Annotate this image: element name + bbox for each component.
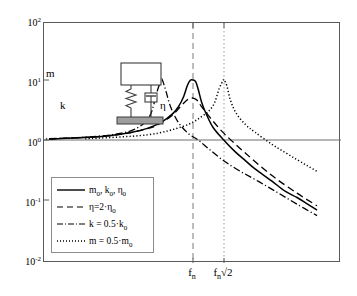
y-tick-exponent: -2 [35,255,41,263]
y-tick-exponent: 2 [38,16,42,24]
x-tick-label-fn: fn [188,266,196,278]
y-tick-label: 10-1 [25,198,41,208]
y-axis-tick-labels: 102 101 100 10-1 10-2 [0,0,41,296]
legend-label-soft-spring: k = 0.5·k0 [89,219,127,229]
spring-icon [126,85,136,117]
mass-block-icon [121,63,161,85]
y-tick-label: 102 [28,18,42,28]
legend-label-high-damping: η=2·η0 [89,202,116,212]
y-tick-label: 10-2 [25,257,41,267]
figure-root: 102 101 100 10-1 10-2 fn fn√2 [0,0,357,296]
y-tick-label: 100 [28,138,42,148]
legend-sample-dashed [56,202,86,212]
legend-sample-dashdot [56,219,86,229]
inset-spring-label: k [60,99,66,111]
plot-area: m k η m0, k0, η0 η=2·η0 k = 0.5·k0 [43,22,340,262]
legend-box: m0, k0, η0 η=2·η0 k = 0.5·k0 m = 0.5·m0 [51,177,154,253]
legend-item-soft-spring: k = 0.5·k0 [56,215,149,232]
y-tick-label: 101 [28,78,42,88]
inset-damper-label: η [160,99,166,111]
legend-label-baseline: m0, k0, η0 [89,185,126,195]
legend-sample-solid [56,185,86,195]
ground-icon [117,117,163,124]
inset-mass-label: m [46,67,55,79]
sqrt2-symbol: √2 [221,266,233,278]
legend-item-light-mass: m = 0.5·m0 [56,232,149,249]
y-tick-exponent: -1 [35,196,41,204]
legend-sample-dotted [56,236,86,246]
y-tick-exponent: 1 [38,76,42,84]
y-tick-exponent: 0 [38,136,42,144]
x-tick-label-fn-sqrt2: fn√2 [213,266,232,278]
legend-label-light-mass: m = 0.5·m0 [89,236,132,246]
mass-spring-damper-schematic [99,61,179,129]
legend-item-high-damping: η=2·η0 [56,198,149,215]
legend-item-baseline: m0, k0, η0 [56,181,149,198]
damper-icon [145,85,157,117]
x-tick-sub: n [192,272,196,281]
